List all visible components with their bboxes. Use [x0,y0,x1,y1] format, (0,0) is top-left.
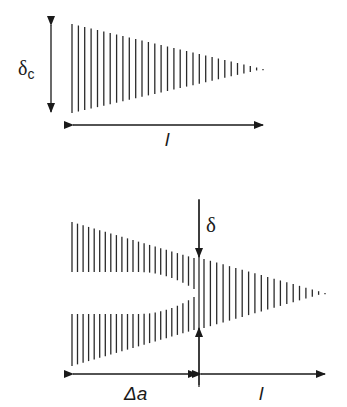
bottom-cohesive-zone-hatching [204,259,325,328]
crack-wake-hatching [72,222,194,366]
top-length-label: l [165,130,169,149]
crack-extension-label: Δa [124,384,147,403]
top-cohesive-zone-hatching [72,24,263,113]
bottom-length-label: l [259,384,263,403]
cohesive-zone-diagram: δc l δ Δa l [0,0,347,407]
subscript-c: c [27,66,34,82]
critical-opening-label: δc [18,58,34,78]
opening-label: δ [206,215,216,236]
diagram-svg [0,0,347,407]
